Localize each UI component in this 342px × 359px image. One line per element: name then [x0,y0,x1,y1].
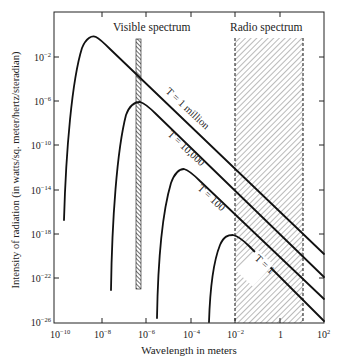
visible-spectrum-label: Visible spectrum [113,21,191,34]
radio-spectrum-band [235,38,303,323]
y-tick-label: 10−26 [31,316,52,328]
x-tick-label: 10−2 [227,328,244,340]
y-tick-label: 10−18 [31,228,51,240]
curve-label-t-100: T = 100 [196,182,228,213]
x-tick-labels: 10−10 10−8 10−6 10−4 10−2 1 102 [50,328,330,340]
curve-label-t-10000: T = 10,000 [166,128,207,168]
y-tick-label: 10−2 [34,51,51,63]
y-axis-title: Intensity of radiation (in watts/sq. met… [10,51,22,288]
x-tick-label: 10−6 [138,328,156,340]
radio-spectrum-label: Radio spectrum [230,21,303,34]
x-tick-label: 10−10 [50,328,70,340]
x-axis-title: Wavelength in meters [141,344,237,356]
x-tick-label: 102 [317,328,330,340]
x-tick-label: 10−4 [183,328,201,340]
y-tick-label: 10−10 [31,139,51,151]
x-tick-label: 1 [278,329,283,340]
y-tick-label: 10−14 [31,184,52,196]
blackbody-chart: Visible spectrum Radio spectrum T = 1 mi… [0,0,342,359]
y-tick-label: 10−22 [31,272,51,284]
y-tick-labels: 10−2 10−6 10−10 10−14 10−18 10−22 10−26 [31,51,52,328]
y-tick-label: 10−6 [34,95,52,107]
x-tick-label: 10−8 [94,328,111,340]
